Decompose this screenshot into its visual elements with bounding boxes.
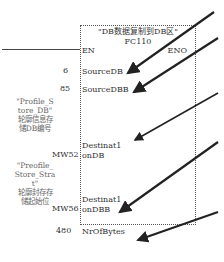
annotation-arrows: [0, 0, 224, 262]
